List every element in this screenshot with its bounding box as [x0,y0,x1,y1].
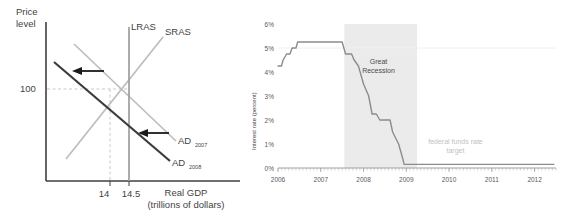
x-tick-label-2008: 2008 [356,176,371,183]
x-axis-tick-labels: 2006200720082009201020112012 [271,176,542,183]
sras-curve [66,37,163,159]
x-tick-label-2006: 2006 [271,176,286,183]
y-axis-tick-labels: 0%1%2%3%4%5%6% [265,21,275,172]
ad-2008-label: AD 2008 [172,157,201,170]
ad-2008-curve [54,62,170,161]
fed-funds-svg: 0%1%2%3%4%5%6% 2006200720082009201020112… [248,0,567,213]
x-axis-title-line1: Real GDP [165,187,208,198]
y-axis-title-line1: Price [16,6,38,17]
great-recession-shaded-region [344,24,417,168]
x-tick-label-2010: 2010 [442,176,457,183]
x-tick-label-14: 14 [99,188,110,199]
sras-label: SRAS [165,26,191,37]
svg-text:Recession: Recession [362,67,395,74]
y-tick-label-5pct: 5% [265,45,275,52]
federal-funds-target-annotation: federal funds rate target [428,138,483,155]
svg-text:Great: Great [370,58,388,65]
ad-as-svg: Price level 100 14 14.5 Real GDP (trilli… [0,0,255,213]
x-axis-title-line2: (trillions of dollars) [147,199,224,210]
y-tick-label-0pct: 0% [265,165,275,172]
x-tick-label-14-5: 14.5 [122,188,141,199]
svg-text:2007: 2007 [195,142,207,148]
y-axis-title-line2: level [16,18,36,29]
y-tick-label-100: 100 [20,83,36,94]
y-tick-label-1pct: 1% [265,141,275,148]
y-axis-title: Interest rate (percent) [251,92,257,150]
ad-2007-label: AD 2007 [178,135,207,148]
x-tick-label-2012: 2012 [527,176,542,183]
svg-text:target: target [447,147,465,155]
svg-text:federal funds rate: federal funds rate [428,138,483,145]
y-tick-label-6pct: 6% [265,21,275,28]
y-tick-label-4pct: 4% [265,69,275,76]
federal-funds-rate-chart: 0%1%2%3%4%5%6% 2006200720082009201020112… [248,0,567,213]
x-axis-major-ticks [278,168,535,172]
svg-text:AD: AD [178,135,191,146]
svg-text:AD: AD [172,157,185,168]
x-tick-label-2007: 2007 [314,176,329,183]
x-tick-label-2009: 2009 [399,176,414,183]
y-tick-label-2pct: 2% [265,117,275,124]
lras-label: LRAS [131,21,156,32]
svg-text:2008: 2008 [189,164,201,170]
y-tick-label-3pct: 3% [265,93,275,100]
figure-container: Price level 100 14 14.5 Real GDP (trilli… [0,0,567,213]
ad-as-diagram: Price level 100 14 14.5 Real GDP (trilli… [0,0,255,213]
x-tick-label-2011: 2011 [485,176,499,183]
